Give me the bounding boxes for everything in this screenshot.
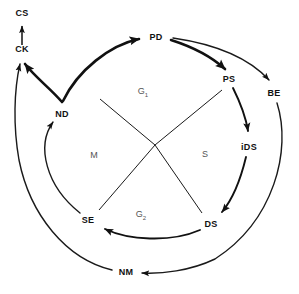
spoke-center-to-nd	[100, 99, 155, 145]
edge-ps-to-ids	[233, 88, 248, 131]
edge-ds-to-se	[105, 229, 200, 239]
node-label-ps: PS	[223, 74, 236, 84]
edge-nd-to-ck	[25, 64, 62, 102]
edge-pd-to-ps	[171, 40, 225, 69]
edge-pd-to-be	[173, 38, 269, 80]
node-label-nm: NM	[119, 267, 134, 277]
node-label-se: SE	[82, 215, 95, 225]
spoke-center-to-se	[99, 145, 155, 210]
node-label-ck: CK	[15, 44, 29, 54]
diagram-canvas: CS CK ND PD PS BE iDS DS SE NM G1 S G2 M	[0, 0, 299, 294]
cell-cycle-diagram: CS CK ND PD PS BE iDS DS SE NM G1 S G2 M	[0, 0, 299, 294]
edge-be-to-nm	[142, 103, 282, 273]
phase-label-g1: G1	[138, 86, 149, 98]
phase-label-s: S	[202, 149, 208, 159]
node-label-pd: PD	[149, 32, 162, 42]
edge-ids-to-ds	[222, 157, 246, 212]
phase-label-g2: G2	[136, 209, 147, 221]
node-label-cs: CS	[15, 8, 28, 18]
node-label-be: BE	[267, 88, 280, 98]
edge-nm-to-ck	[15, 64, 112, 270]
spoke-center-to-ds	[155, 145, 202, 213]
node-label-ds: DS	[204, 219, 217, 229]
phase-label-m: M	[90, 150, 98, 160]
edge-se-to-nd	[45, 122, 80, 213]
node-label-ids: iDS	[241, 142, 257, 152]
spoke-center-to-ps	[155, 90, 222, 145]
node-label-nd: ND	[55, 109, 69, 119]
node-labels: CS CK ND PD PS BE iDS DS SE NM	[15, 8, 280, 277]
edge-nd-to-pd	[63, 39, 139, 101]
